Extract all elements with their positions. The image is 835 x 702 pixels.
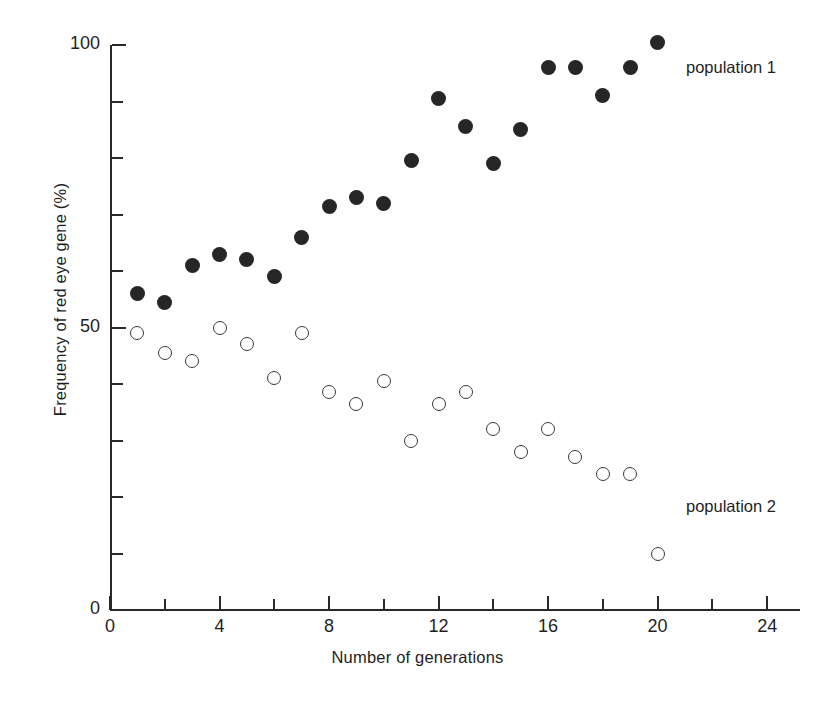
- x-axis-label: Number of generations: [0, 648, 835, 667]
- data-point-2: [377, 374, 391, 388]
- data-point-2: [295, 326, 309, 340]
- series-annotation-population-2: population 2: [686, 497, 776, 516]
- data-point-1: [157, 295, 172, 310]
- data-point-2: [486, 422, 500, 436]
- data-point-2: [130, 326, 144, 340]
- data-point-1: [294, 230, 309, 245]
- data-point-1: [404, 153, 419, 168]
- x-tick-minor: [273, 599, 275, 610]
- data-point-1: [623, 60, 638, 75]
- x-tick-minor: [492, 599, 494, 610]
- x-tick-minor: [602, 599, 604, 610]
- x-tick-label: 24: [744, 616, 790, 637]
- data-point-1: [322, 199, 337, 214]
- data-point-1: [212, 247, 227, 262]
- data-point-2: [623, 467, 637, 481]
- data-point-1: [568, 60, 583, 75]
- data-point-1: [541, 60, 556, 75]
- data-point-1: [239, 252, 254, 267]
- x-tick-label: 0: [87, 616, 133, 637]
- data-point-2: [322, 385, 336, 399]
- data-point-2: [213, 321, 227, 335]
- data-point-2: [514, 445, 528, 459]
- data-point-1: [513, 122, 528, 137]
- x-tick-label: 8: [306, 616, 352, 637]
- data-point-2: [432, 397, 446, 411]
- x-tick-minor: [164, 599, 166, 610]
- x-tick-major: [547, 596, 549, 610]
- y-tick-minor: [112, 157, 123, 159]
- y-tick-major: [112, 609, 126, 611]
- y-tick-major: [112, 327, 126, 329]
- data-point-2: [651, 547, 665, 561]
- data-point-2: [404, 434, 418, 448]
- data-point-1: [185, 258, 200, 273]
- y-tick-minor: [112, 496, 123, 498]
- data-point-2: [349, 397, 363, 411]
- data-point-1: [431, 91, 446, 106]
- y-tick-minor: [112, 101, 123, 103]
- data-point-1: [267, 269, 282, 284]
- x-tick-major: [219, 596, 221, 610]
- x-tick-label: 20: [635, 616, 681, 637]
- y-tick-minor: [112, 553, 123, 555]
- data-point-2: [459, 385, 473, 399]
- y-tick-label: 100: [38, 33, 100, 54]
- data-point-1: [650, 35, 665, 50]
- chart-figure: Frequency of red eye gene (%) Number of …: [0, 0, 835, 702]
- y-tick-minor: [112, 383, 123, 385]
- series-annotation-population-1: population 1: [686, 58, 776, 77]
- data-point-1: [349, 190, 364, 205]
- data-point-2: [596, 467, 610, 481]
- data-point-1: [595, 88, 610, 103]
- data-point-2: [568, 450, 582, 464]
- y-axis-label: Frequency of red eye gene (%): [51, 110, 70, 490]
- y-tick-minor: [112, 440, 123, 442]
- y-tick-major: [112, 44, 126, 46]
- y-tick-minor: [112, 214, 123, 216]
- x-tick-major: [766, 596, 768, 610]
- data-point-1: [486, 156, 501, 171]
- x-tick-major: [438, 596, 440, 610]
- data-point-2: [185, 354, 199, 368]
- data-point-2: [267, 371, 281, 385]
- x-tick-minor: [711, 599, 713, 610]
- data-point-2: [541, 422, 555, 436]
- x-tick-major: [328, 596, 330, 610]
- data-point-2: [158, 346, 172, 360]
- x-tick-minor: [383, 599, 385, 610]
- y-tick-minor: [112, 270, 123, 272]
- data-point-2: [240, 337, 254, 351]
- data-point-1: [376, 196, 391, 211]
- x-tick-label: 12: [416, 616, 462, 637]
- x-tick-major: [109, 596, 111, 610]
- x-axis-line: [110, 609, 800, 611]
- y-tick-label: 50: [38, 316, 100, 337]
- data-point-1: [458, 119, 473, 134]
- x-tick-label: 4: [197, 616, 243, 637]
- data-point-1: [130, 286, 145, 301]
- x-tick-label: 16: [525, 616, 571, 637]
- x-tick-major: [657, 596, 659, 610]
